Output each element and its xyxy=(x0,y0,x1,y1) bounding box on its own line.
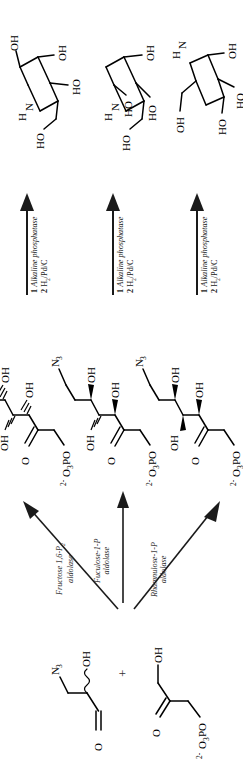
ket3-azide-sub: 3 xyxy=(139,356,148,360)
ket3-oh-left: OH xyxy=(168,435,180,451)
enzyme-fuculose-line1: Fuculose-1-P xyxy=(93,538,102,583)
substrate-dhap: 2- O 3 PO O OH xyxy=(140,611,218,761)
imino3-oh-a: OH xyxy=(174,117,186,133)
ket1-oh-left: OH xyxy=(0,435,10,451)
ket2-hash-2 xyxy=(91,416,101,430)
ket3-oh-top: OH xyxy=(169,367,181,383)
imino1-oh-a: OH xyxy=(8,35,20,51)
ket1-phos-o: O xyxy=(60,469,72,477)
cond2-step2-post: /Pd/C xyxy=(126,259,135,278)
cond2-step1-reagent: Alkaline phosphatase xyxy=(116,217,125,287)
ket1-hash-1 xyxy=(21,400,31,414)
enzyme-fructose-line1: Fructose 1,6-P xyxy=(55,546,64,595)
product-iminocyclitol-1: H N HO OH OH HO xyxy=(6,5,92,155)
enzyme-rhamnulose-line2: aldolase xyxy=(159,556,168,584)
ket3-azide: N xyxy=(133,359,145,367)
aldehyde-hydroxyl-label: OH xyxy=(80,651,92,667)
ket1-phos-charge: 2- xyxy=(59,479,68,486)
ket2-wedge-3 xyxy=(88,384,94,400)
product-iminocyclitol-2: H N HO HO OH HO xyxy=(92,5,178,155)
intermediate-azido-ketose-3: 2- O 3 PO O OH OH OH xyxy=(174,337,243,487)
substrate-aldehyde: O OH N 3 xyxy=(56,637,116,757)
cond1-step2-pre: H xyxy=(40,281,49,287)
ket3-wedge-3 xyxy=(172,384,178,400)
conditions-label-1: 1 Alkaline phosphatase 2 H2/Pd/C xyxy=(30,217,51,293)
enzyme-label-fructose: Fructose 1,6-P2 aldolase xyxy=(55,543,75,595)
ket1-phos-sub: 3 xyxy=(66,465,75,469)
cond1-step2-post: /Pd/C xyxy=(40,259,49,278)
reaction-scheme-page: O OH N 3 + 2- O 3 PO O OH xyxy=(0,0,243,765)
aldehyde-azide-sub: 3 xyxy=(55,664,64,668)
ket2-phos-o: O xyxy=(146,469,158,477)
product-iminocyclitol-3: H N OH HO HO OH xyxy=(176,5,243,155)
imino2-oh-b: OH xyxy=(144,45,156,61)
ket2-azide-sub: 3 xyxy=(55,356,64,360)
ket1-carbonyl: O xyxy=(19,457,31,465)
dhap-phosphate-sub: 3 xyxy=(202,737,211,741)
ket3-phos-tail: PO xyxy=(230,451,242,465)
aldehyde-carbonyl-label: O xyxy=(92,743,104,751)
imino3-oh-c: HO xyxy=(234,93,243,109)
cond2-step2-pre: H xyxy=(126,281,135,287)
imino1-nh-h: H xyxy=(16,113,28,121)
cond2-step1-num: 1 xyxy=(116,289,125,293)
dhap-phosphate-charge: 2- xyxy=(195,752,204,759)
ket3-phos-o: O xyxy=(230,469,242,477)
imino1-oh-d: HO xyxy=(70,79,82,95)
dhap-phosphate-tail: PO xyxy=(196,723,208,737)
intermediate-azido-ketose-2: 2- O 3 PO O OH xyxy=(90,337,168,487)
imino3-nh-n: N xyxy=(176,41,188,49)
imino1-oh-b: OH xyxy=(56,45,68,61)
cond2-step2-num: 2 xyxy=(126,289,135,293)
dhap-phosphate-o: O xyxy=(196,741,208,749)
imino2-oh-d: HO xyxy=(146,105,158,121)
cond1-step1-reagent: Alkaline phosphatase xyxy=(30,217,39,287)
ket2-oh-bottom: OH xyxy=(109,382,121,398)
ket1-phos-tail: PO xyxy=(60,451,72,465)
cond1-step2-num: 2 xyxy=(40,289,49,293)
ket3-oh-bottom: OH xyxy=(193,382,205,398)
imino3-nh-h: H xyxy=(170,51,182,59)
cond1-step2-sub: 2 xyxy=(44,278,50,281)
imino2-nh-n: N xyxy=(109,103,121,111)
ket3-wedge-1 xyxy=(196,399,202,415)
plus-symbol: + xyxy=(115,670,131,677)
ket2-oh-left: OH xyxy=(84,435,96,451)
imino3-oh-b: HO xyxy=(216,119,228,135)
ket1-hash-3 xyxy=(0,385,7,399)
ket1-oh-top: OH xyxy=(0,367,11,383)
cond2-step2-sub: 2 xyxy=(130,278,136,281)
cond3-step2-num: 2 xyxy=(210,289,219,293)
dhap-carbonyl-label: O xyxy=(150,729,162,737)
imino2-oh-a: HO xyxy=(122,101,134,117)
conditions-label-2: 1 Alkaline phosphatase 2 H2/Pd/C xyxy=(116,217,137,293)
enzyme-fructose-line2: aldolase xyxy=(66,555,75,583)
dhap-hydroxyl-label: OH xyxy=(152,647,164,663)
cond3-step1-num: 1 xyxy=(200,289,209,293)
imino3-oh-d: OH xyxy=(226,43,238,59)
enzyme-label-rhamnulose: Rhamnulose-1-P aldolase xyxy=(150,542,169,597)
enzyme-fructose-sub: 2 xyxy=(60,543,66,546)
ket3-carbonyl: O xyxy=(189,457,201,465)
cond1-step1-num: 1 xyxy=(30,289,39,293)
enzyme-label-fuculose: Fuculose-1-P aldolase xyxy=(93,538,112,583)
imino1-oh-c: HO xyxy=(34,133,46,149)
imino1-nh-n: N xyxy=(23,103,35,111)
ket1-hash-2 xyxy=(5,416,15,430)
ket3-wedge-2 xyxy=(180,415,186,431)
cond3-step2-sub: 2 xyxy=(214,278,220,281)
ket3-phos-charge: 2- xyxy=(229,479,238,486)
cond3-step2-post: /Pd/C xyxy=(210,259,219,278)
ket2-phos-charge: 2- xyxy=(145,479,154,486)
scheme-canvas: O OH N 3 + 2- O 3 PO O OH xyxy=(0,0,243,765)
arrow-rhamnulose-aldolase xyxy=(128,495,223,615)
imino2-nh-h: H xyxy=(102,113,114,121)
conditions-label-3: 1 Alkaline phosphatase 2 H2/Pd/C xyxy=(200,217,221,293)
aldehyde-azide-label: N xyxy=(49,667,61,675)
cond3-step2-pre: H xyxy=(210,281,219,287)
ket2-azide: N xyxy=(49,359,61,367)
intermediate-azido-ketose-1: 2- O 3 PO O xyxy=(4,337,82,487)
cond3-step1-reagent: Alkaline phosphatase xyxy=(200,217,209,287)
ket2-oh-top: OH xyxy=(85,367,97,383)
ket2-phos-tail: PO xyxy=(146,451,158,465)
